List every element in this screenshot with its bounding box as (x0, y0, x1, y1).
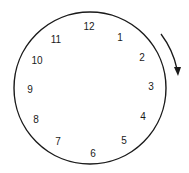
clock-face-circle (14, 12, 166, 164)
clock-number-3: 3 (148, 81, 154, 92)
clock-number-8: 8 (33, 114, 39, 125)
clock-number-6: 6 (90, 148, 96, 159)
clock-diagram: 12 1 2 3 4 5 6 7 8 9 10 11 (0, 0, 189, 173)
clock-number-7: 7 (55, 136, 61, 147)
clock-number-4: 4 (140, 111, 146, 122)
clock-number-12: 12 (83, 21, 95, 32)
clock-number-11: 11 (51, 34, 62, 45)
clock-number-10: 10 (31, 55, 43, 66)
clock-numbers: 12 1 2 3 4 5 6 7 8 9 10 11 (27, 21, 154, 159)
clock-number-1: 1 (117, 32, 123, 43)
clock-number-9: 9 (27, 84, 33, 95)
clock-number-2: 2 (139, 52, 145, 63)
clock-number-5: 5 (121, 135, 127, 146)
